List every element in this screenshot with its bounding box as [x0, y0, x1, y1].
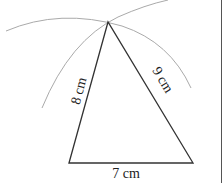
triangle-construction-figure: 7 cm 8 cm 9 cm — [0, 0, 224, 183]
diagram-canvas: 7 cm 8 cm 9 cm — [0, 0, 224, 183]
arc-radius-9-from-right-vertex — [42, 0, 168, 108]
right-side-label: 9 cm — [149, 64, 176, 95]
triangle — [69, 22, 193, 163]
base-label: 7 cm — [112, 166, 140, 181]
